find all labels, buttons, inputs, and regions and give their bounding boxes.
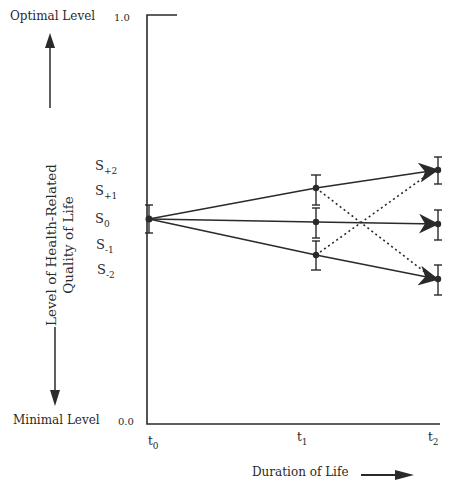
minimal-down-arrow-icon xyxy=(50,327,60,406)
error-bars xyxy=(145,157,442,295)
point-t1-s-1 xyxy=(313,252,319,258)
trajectory-lines xyxy=(149,170,437,279)
point-t0-s0 xyxy=(146,216,153,223)
point-t2-s+2 xyxy=(435,167,441,173)
optimal-up-arrow-icon xyxy=(45,33,55,108)
point-t2-s-2 xyxy=(435,276,441,282)
point-t1-s0 xyxy=(313,219,319,225)
diagram-canvas xyxy=(0,0,454,493)
data-points xyxy=(146,167,442,282)
duration-right-arrow-icon xyxy=(361,470,414,480)
crossover-dotted-lines xyxy=(316,173,430,276)
point-t2-s0 xyxy=(435,221,441,227)
point-t1-s+1 xyxy=(313,185,319,191)
